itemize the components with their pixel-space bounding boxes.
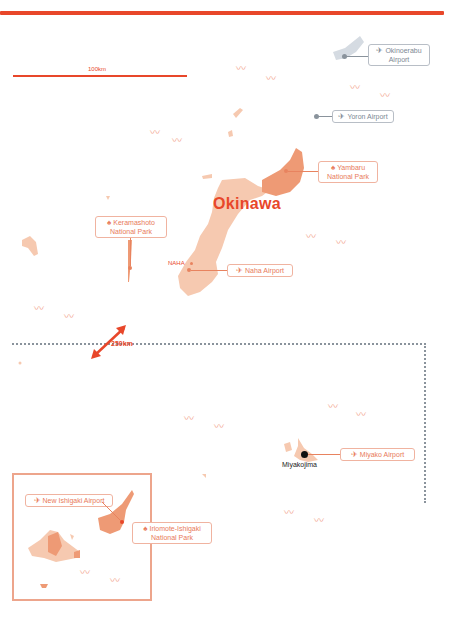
airplane-icon: ✈ [338, 112, 345, 121]
sea-waves-icon: 〰 [64, 314, 71, 319]
sea-waves-icon: 〰 [214, 424, 221, 429]
yambaru-leader [288, 171, 318, 172]
keramashoto-leader [130, 238, 131, 266]
sea-waves-icon: 〰 [336, 240, 343, 245]
sea-waves-icon: 〰 [306, 234, 313, 239]
miyakojima-marker [301, 451, 308, 458]
airplane-icon: ✈ [236, 266, 243, 275]
ishigaki-leader [100, 500, 130, 530]
miyako-leader [308, 454, 340, 455]
sea-waves-icon: 〰 [266, 76, 273, 81]
miyako-island [294, 438, 318, 462]
sea-waves-icon: 〰 [172, 138, 179, 143]
miyako-airport-label[interactable]: ✈Miyako Airport [340, 448, 415, 461]
tree-icon: ♠ [331, 163, 335, 172]
sea-waves-icon: 〰 [236, 66, 243, 71]
sea-waves-icon: 〰 [184, 416, 191, 421]
region-boundary-vertical [424, 343, 426, 503]
sea-waves-icon: 〰 [328, 404, 335, 409]
naha-airport-label[interactable]: ✈Naha Airport [227, 264, 293, 277]
naha-leader [191, 270, 227, 271]
sea-waves-icon: 〰 [314, 518, 321, 523]
sea-waves-icon: 〰 [34, 306, 41, 311]
yoron-leader [318, 116, 332, 117]
keramashoto-park-label[interactable]: ♠Keramashoto National Park [95, 216, 167, 238]
yaeyama-inset-frame [12, 473, 152, 601]
sea-waves-icon: 〰 [150, 130, 157, 135]
iriomote-park-label[interactable]: ♠Iriomote-Ishigaki National Park [132, 522, 212, 544]
distance-label: 250km [111, 340, 133, 347]
tree-icon: ♠ [107, 218, 111, 227]
okinoerabu-leader [346, 56, 368, 57]
tree-icon: ♠ [143, 524, 147, 533]
kume-island [22, 236, 38, 256]
sea-waves-icon: 〰 [356, 412, 363, 417]
yambaru-region [262, 148, 304, 196]
sea-waves-icon: 〰 [350, 85, 357, 90]
region-title: Okinawa [213, 195, 281, 213]
okinoerabu-airport-label[interactable]: ✈Okinoerabu Airport [368, 44, 430, 66]
keramashoto-marker [128, 266, 132, 270]
map: 100km 〰 〰 〰 〰 〰 〰 〰 〰 〰 〰 [0, 0, 456, 631]
miyakojima-label: Miyakojima [282, 461, 317, 468]
yambaru-park-label[interactable]: ♠Yambaru National Park [318, 161, 378, 183]
sea-waves-icon: 〰 [284, 510, 291, 515]
naha-city-label: NAHA [168, 260, 185, 266]
yoron-airport-label[interactable]: ✈Yoron Airport [332, 110, 394, 123]
airplane-icon: ✈ [376, 46, 383, 55]
airplane-icon: ✈ [34, 496, 41, 505]
airplane-icon: ✈ [351, 450, 358, 459]
sea-waves-icon: 〰 [380, 93, 387, 98]
naha-city-marker [190, 262, 193, 265]
region-boundary-horizontal [12, 343, 426, 345]
